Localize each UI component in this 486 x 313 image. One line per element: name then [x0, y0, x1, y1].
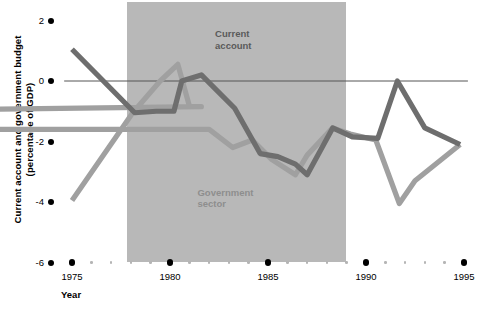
x-axis-title: Year: [61, 289, 81, 300]
series-line-government-sector: [0, 64, 460, 203]
x-tick-dot-minor: [188, 261, 191, 264]
x-tick-dot-major: [167, 259, 174, 266]
y-tick-label: -2: [22, 136, 44, 147]
x-tick-dot-minor: [286, 261, 289, 264]
y-tick-dot: [48, 199, 54, 205]
x-tick-dot-major: [69, 259, 76, 266]
x-tick-dot-minor: [326, 261, 329, 264]
x-tick-dot-major: [461, 259, 468, 266]
x-tick-dot-minor: [149, 261, 152, 264]
x-tick-label: 1980: [150, 271, 190, 282]
y-tick-dot: [48, 139, 54, 145]
y-tick-dot: [48, 260, 54, 266]
x-tick-label: 1975: [52, 271, 92, 282]
x-tick-dot-minor: [90, 261, 93, 264]
x-tick-dot-minor: [443, 261, 446, 264]
y-tick-label: 0: [22, 75, 44, 86]
series-label-current-account: Current account: [215, 28, 251, 51]
x-tick-dot-minor: [384, 261, 387, 264]
y-tick-label: -6: [22, 257, 44, 268]
x-tick-label: 1985: [248, 271, 288, 282]
y-tick-label: 2: [22, 15, 44, 26]
x-tick-dot-minor: [345, 261, 348, 264]
x-tick-dot-minor: [130, 261, 133, 264]
x-tick-dot-major: [363, 259, 370, 266]
x-tick-dot-major: [265, 259, 272, 266]
y-tick-label: -4: [22, 196, 44, 207]
series-label-government-sector: Government sector: [197, 187, 253, 210]
x-tick-label: 1990: [346, 271, 386, 282]
chart-container: Current account and government budget (p…: [0, 0, 486, 313]
x-tick-dot-minor: [228, 261, 231, 264]
x-tick-label: 1995: [444, 271, 484, 282]
y-tick-dot: [48, 78, 54, 84]
x-tick-dot-minor: [247, 261, 250, 264]
y-tick-dot: [48, 18, 54, 24]
x-tick-dot-minor: [424, 261, 427, 264]
